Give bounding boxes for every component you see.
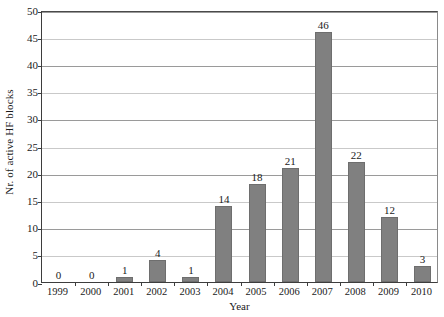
y-axis-tick-label: 15 [16,196,38,207]
y-axis-tick-label: 25 [16,142,38,153]
y-axis-tick-label: 45 [16,33,38,44]
y-axis-tick-mark [38,229,42,230]
y-axis-tick-mark [38,12,42,13]
bar [249,184,266,282]
y-axis-title-text: Nr. of active HF blocks [3,89,15,194]
gridline [42,256,437,257]
x-axis-tick-label: 2010 [401,286,441,298]
gridline [42,12,437,13]
y-axis-tick-mark [38,39,42,40]
y-axis-tick-mark [38,202,42,203]
y-axis-tick-mark [38,175,42,176]
bar-value-label: 18 [240,172,274,183]
bar [182,277,199,282]
y-axis-tick-mark [38,284,42,285]
bar-value-label: 3 [405,254,439,265]
y-axis-tick-mark [38,148,42,149]
x-axis-title: Year [41,300,438,312]
y-axis-tick-label: 35 [16,87,38,98]
y-axis-tick-label: 10 [16,223,38,234]
bar [315,32,332,282]
gridline [42,39,437,40]
y-axis-tick-mark [38,256,42,257]
bar [116,277,133,282]
bar [381,217,398,282]
plot-area: 001411418214622123 [41,11,438,283]
bar-value-label: 46 [306,20,340,31]
y-axis-tick-mark [38,66,42,67]
bar-value-label: 0 [75,270,109,281]
y-axis-tick-label: 30 [16,114,38,125]
y-axis-tick-mark [38,93,42,94]
bar-value-label: 4 [141,248,175,259]
bar-value-label: 12 [372,205,406,216]
y-axis-tick-label: 5 [16,250,38,261]
y-axis-tick-label: 50 [16,6,38,17]
gridline [42,148,437,149]
bar [149,260,166,282]
bar-value-label: 0 [42,270,76,281]
bar-value-label: 1 [108,265,142,276]
bar-value-label: 22 [339,150,373,161]
gridline [42,93,437,94]
y-axis-tick-label: 40 [16,60,38,71]
gridline [42,66,437,67]
bar-value-label: 14 [207,194,241,205]
bar-value-label: 1 [174,265,208,276]
y-axis-tick-labels: 05101520253035404550 [16,0,38,290]
y-axis-tick-mark [38,120,42,121]
y-axis-tick-label: 20 [16,169,38,180]
bar [348,162,365,282]
gridline [42,229,437,230]
x-axis-tick-labels: 1999200020012002200320042005200620072008… [41,286,438,300]
bar-chart: Nr. of active HF blocks 0510152025303540… [0,0,444,317]
bar-value-label: 21 [273,156,307,167]
bar [215,206,232,282]
gridline [42,120,437,121]
bar [414,266,431,282]
y-axis-tick-label: 0 [16,278,38,289]
bar [282,168,299,282]
